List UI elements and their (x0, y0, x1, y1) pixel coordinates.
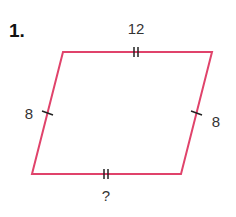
parallelogram-figure: 1. 12 8 8 ? (0, 0, 236, 217)
left-side-label: 8 (25, 105, 33, 122)
bottom-side-label: ? (102, 187, 110, 204)
right-side-label: 8 (212, 113, 220, 130)
parallelogram-shape (32, 52, 212, 174)
top-side-label: 12 (128, 20, 145, 37)
problem-number: 1. (9, 20, 25, 41)
